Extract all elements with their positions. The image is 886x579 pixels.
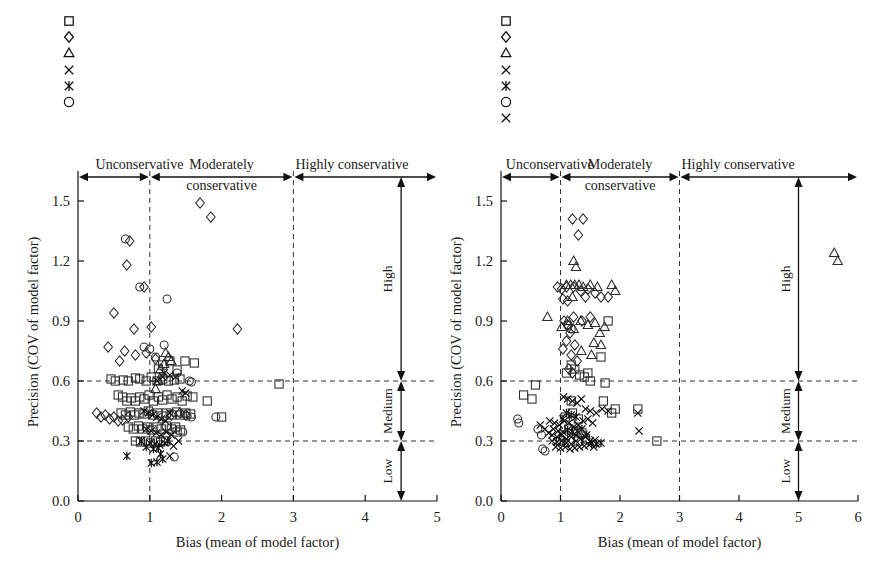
band-label-high: High: [778, 265, 793, 292]
legend-item: [499, 79, 886, 95]
zone-arrow: [294, 173, 436, 181]
y-tick-label: 1.5: [475, 193, 493, 209]
band-arrow-low: [795, 441, 803, 501]
zone-label-moderately-conservative: Moderately: [588, 157, 653, 172]
legend-item: [62, 63, 442, 79]
square-marker-icon: [499, 14, 512, 28]
data-points: [514, 214, 843, 455]
panel-driven-pile: UnconservativeModeratelyconservativeHigh…: [0, 0, 443, 579]
square-marker-icon: [62, 14, 75, 28]
x-tick-label: 4: [362, 509, 370, 525]
x-tick-label: 6: [854, 509, 861, 525]
x-tick-label: 0: [74, 509, 81, 525]
x-tick-label: 3: [290, 509, 297, 525]
y-tick-label: 1.5: [52, 193, 70, 209]
y-tick-label: 0.3: [475, 433, 493, 449]
x-axis-title: Bias (mean of model factor): [176, 534, 340, 551]
x-tick-label: 3: [676, 509, 683, 525]
band-arrow-high: [397, 177, 405, 381]
y-tick-label: 0.0: [475, 493, 493, 509]
asterisk-marker-icon: [62, 79, 75, 93]
x-tick-label: 1: [557, 509, 564, 525]
band-arrow-high: [795, 177, 803, 381]
zone-arrow: [79, 173, 149, 181]
legend-item: [499, 95, 886, 111]
y-tick-label: 0.6: [52, 373, 70, 389]
zone-label-moderately-conservative: Moderately: [189, 157, 254, 172]
band-label-low: Low: [778, 458, 793, 483]
band-arrow-low: [397, 441, 405, 501]
y-tick-label: 0.3: [52, 433, 70, 449]
band-arrow-medium: [795, 381, 803, 441]
legend-driven-pile: [62, 14, 442, 111]
y-axis-title: Precision (COV of model factor): [448, 237, 465, 428]
asterisk-marker-icon: [499, 79, 512, 93]
diamond-marker-icon: [62, 30, 75, 44]
legend-item: [62, 14, 442, 30]
cross-marker-icon: [62, 63, 75, 77]
band-label-low: Low: [380, 458, 395, 483]
triangle-marker-icon: [499, 46, 512, 60]
x-axis-title: Bias (mean of model factor): [598, 534, 762, 551]
zone-label-unconservative: Unconservative: [506, 157, 594, 172]
zone-label-highly-conservative: Highly conservative: [295, 157, 408, 172]
x-tick-label: 0: [497, 509, 504, 525]
cross-marker-icon: [499, 111, 512, 125]
x-tick-label: 2: [616, 509, 623, 525]
y-tick-label: 1.2: [475, 253, 493, 269]
y-axis-title: Precision (COV of model factor): [25, 237, 42, 428]
x-tick-label: 1: [146, 509, 153, 525]
zone-label-moderately-conservative-line2: conservative: [186, 178, 257, 193]
legend-item: [499, 63, 886, 79]
legend-item: [62, 30, 442, 46]
panel-drilled-shaft: UnconservativeModeratelyconservativeHigh…: [443, 0, 886, 579]
y-tick-label: 1.2: [52, 253, 70, 269]
zone-arrow: [681, 173, 858, 181]
circle-marker-icon: [62, 95, 75, 109]
x-tick-label: 5: [433, 509, 440, 525]
band-label-medium: Medium: [380, 388, 395, 434]
zone-label-highly-conservative: Highly conservative: [682, 157, 795, 172]
legend-item: [499, 30, 886, 46]
data-points: [92, 198, 283, 467]
band-arrow-medium: [397, 381, 405, 441]
legend-item: [499, 46, 886, 62]
legend-item: [62, 79, 442, 95]
triangle-marker-icon: [62, 46, 75, 60]
zone-label-unconservative: Unconservative: [96, 157, 184, 172]
legend-drilled-shaft: [499, 14, 886, 127]
zone-label-moderately-conservative-line2: conservative: [585, 178, 656, 193]
y-tick-label: 0.0: [52, 493, 70, 509]
y-tick-label: 0.9: [52, 313, 70, 329]
legend-item: [499, 14, 886, 30]
diamond-marker-icon: [499, 30, 512, 44]
y-tick-label: 0.6: [475, 373, 493, 389]
x-tick-label: 4: [735, 509, 743, 525]
legend-item: [62, 46, 442, 62]
legend-item: [499, 111, 886, 127]
band-label-medium: Medium: [778, 388, 793, 434]
zone-arrow: [502, 173, 560, 181]
x-tick-label: 2: [218, 509, 225, 525]
y-tick-label: 0.9: [475, 313, 493, 329]
legend-item: [62, 95, 442, 111]
circle-marker-icon: [499, 95, 512, 109]
cross-marker-icon: [499, 63, 512, 77]
x-tick-label: 5: [795, 509, 802, 525]
band-label-high: High: [380, 265, 395, 292]
